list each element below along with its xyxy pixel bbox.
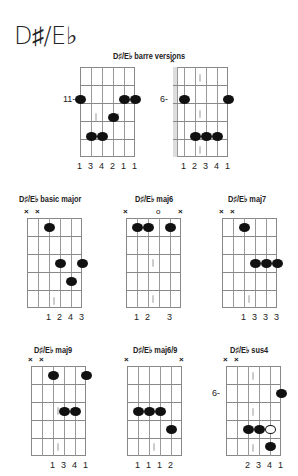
- finger-number: 3: [256, 460, 261, 470]
- string-line: [217, 67, 218, 157]
- finger-number: 4: [68, 312, 73, 322]
- finger-dot: [155, 407, 166, 416]
- fret-line: [126, 254, 181, 255]
- muted-string-mark: ×: [223, 355, 228, 364]
- finger-dot: [144, 407, 155, 416]
- fret-line: [31, 402, 86, 403]
- section-title-basic-major: D♯/E♭ basic major: [19, 194, 81, 204]
- finger-number: 3: [203, 161, 208, 171]
- fret-line: [31, 384, 86, 385]
- finger-dot: [143, 223, 154, 232]
- fret-line: [127, 438, 182, 439]
- fret-line: [222, 272, 277, 273]
- finger-number: 1: [225, 161, 230, 171]
- finger-number: 2: [168, 460, 173, 470]
- string-line: [71, 218, 72, 308]
- fret-line: [126, 290, 181, 291]
- section-title-sus4: D♯/E♭ sus4: [230, 345, 268, 355]
- fret-line: [173, 121, 228, 122]
- fret-line: [80, 85, 135, 86]
- finger-number: 3: [79, 312, 84, 322]
- finger-number: 2: [110, 161, 115, 171]
- fret-line: [27, 236, 82, 237]
- string-line: [248, 366, 249, 456]
- string-line: [38, 218, 39, 308]
- finger-number: 1: [46, 312, 51, 322]
- finger-number: 2: [145, 312, 150, 322]
- finger-dot: [254, 425, 265, 434]
- finger-dot: [133, 407, 144, 416]
- finger-number: 4: [214, 161, 219, 171]
- finger-dot: [66, 277, 77, 286]
- finger-dot: [77, 259, 88, 268]
- muted-string-mark: ×: [179, 355, 184, 364]
- fret-line: [173, 85, 228, 86]
- finger-number: 2: [57, 312, 62, 322]
- fret-position-label: 6-: [212, 388, 220, 398]
- fret-line: [126, 272, 181, 273]
- section-title-maj6: D♯/E♭ maj6: [135, 194, 173, 204]
- finger-dot: [132, 223, 143, 232]
- finger-dot: [239, 223, 250, 232]
- fret-line: [226, 420, 281, 421]
- fret-inlay-marker: [252, 444, 254, 452]
- finger-dot: [201, 132, 212, 141]
- fret-line: [226, 402, 281, 403]
- finger-number: 1: [135, 460, 140, 470]
- fret-line: [127, 402, 182, 403]
- fret-inlay-marker: [199, 110, 201, 118]
- fret-inlay-marker: [53, 297, 55, 305]
- fret-inlay-marker: [199, 74, 201, 82]
- section-title-maj9: D♯/E♭ maj9: [34, 345, 72, 355]
- finger-dot: [86, 132, 97, 141]
- string-line: [124, 67, 125, 157]
- string-line: [102, 67, 103, 157]
- string-line: [137, 218, 138, 308]
- optional-note-circle: [265, 425, 276, 434]
- finger-number: 1: [278, 460, 283, 470]
- finger-number: 2: [192, 161, 197, 171]
- finger-dot: [179, 95, 190, 104]
- finger-dot: [97, 132, 108, 141]
- finger-dot: [272, 259, 283, 268]
- finger-number: 4: [99, 161, 104, 171]
- fret-line: [127, 384, 182, 385]
- finger-dot: [223, 95, 234, 104]
- fret-inlay-marker: [153, 443, 155, 451]
- finger-dot: [190, 132, 201, 141]
- finger-number: 1: [134, 312, 139, 322]
- string-line: [148, 218, 149, 308]
- muted-string-mark: ×: [219, 207, 224, 216]
- finger-number: 4: [72, 460, 77, 470]
- string-line: [184, 67, 185, 157]
- muted-string-mark: ×: [28, 355, 33, 364]
- finger-dot: [44, 223, 55, 232]
- finger-dot: [48, 371, 59, 380]
- section-title-maj69: D♯/E♭ maj6/9: [133, 345, 177, 355]
- finger-number: 1: [132, 161, 137, 171]
- string-line: [53, 366, 54, 456]
- muted-string-mark: ×: [24, 207, 29, 216]
- finger-number: 3: [61, 460, 66, 470]
- string-line: [170, 218, 171, 308]
- finger-dot: [265, 442, 276, 451]
- fret-inlay-marker: [252, 372, 254, 380]
- string-line: [91, 67, 92, 157]
- fret-line: [226, 384, 281, 385]
- fret-line: [31, 438, 86, 439]
- open-string-mark: o: [156, 207, 160, 216]
- fretboard-grid: [80, 67, 135, 157]
- fret-line: [27, 272, 82, 273]
- string-line: [49, 218, 50, 308]
- fret-line: [80, 121, 135, 122]
- muted-string-mark: ×: [123, 207, 128, 216]
- string-line: [195, 67, 196, 157]
- fret-line: [126, 236, 181, 237]
- fret-position-label: 6-: [160, 94, 168, 104]
- fret-inlay-marker: [252, 408, 254, 416]
- fret-line: [222, 254, 277, 255]
- string-line: [159, 218, 160, 308]
- finger-number: 2: [245, 460, 250, 470]
- fret-inlay-marker: [57, 443, 59, 451]
- finger-number: 3: [88, 161, 93, 171]
